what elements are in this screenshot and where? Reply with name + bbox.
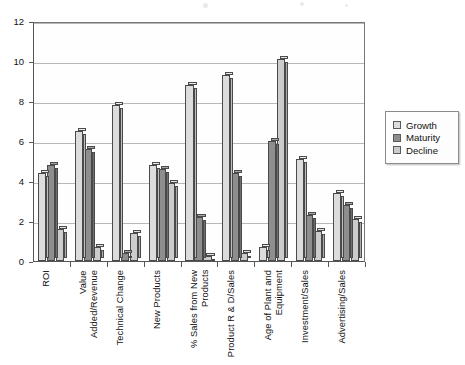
- bar-side-face: [166, 172, 169, 258]
- bar-growth: [259, 247, 267, 261]
- bar-growth: [222, 75, 230, 261]
- x-axis-tick-mark: [291, 262, 292, 267]
- y-axis-tick-label: 4: [2, 177, 24, 187]
- x-axis-tick-mark: [217, 262, 218, 267]
- x-axis-tick-mark: [254, 262, 255, 267]
- y-axis-tick-label: 2: [2, 217, 24, 227]
- bar-side-face: [230, 78, 233, 258]
- x-axis-tick-mark: [144, 262, 145, 267]
- legend-item-label: Growth: [406, 120, 437, 131]
- legend-item-label: Maturity: [406, 132, 440, 143]
- bar-front-face: [185, 85, 193, 261]
- y-axis-tick-label: 12: [2, 17, 24, 27]
- bar-maturity: [268, 141, 276, 261]
- bar-side-face: [129, 256, 132, 258]
- bar-growth: [185, 85, 193, 261]
- x-axis-tick-mark: [328, 262, 329, 267]
- bar-growth: [296, 159, 304, 261]
- legend-swatch-icon: [393, 134, 401, 142]
- scan-speckle: [345, 4, 348, 7]
- bars-layer: [34, 23, 364, 261]
- bar-chart: 024681012 ROIValue Added/RevenueTechnica…: [0, 0, 465, 365]
- bar-growth: [149, 165, 157, 261]
- bar-side-face: [267, 250, 270, 258]
- bar-growth: [333, 193, 341, 261]
- bar-growth: [38, 173, 46, 261]
- legend-item-decline[interactable]: Decline: [393, 145, 452, 156]
- bar-side-face: [46, 176, 49, 258]
- bar-front-face: [268, 141, 276, 261]
- legend-swatch-icon: [393, 121, 401, 129]
- bar-front-face: [222, 75, 230, 261]
- x-axis-category-label: Advertising/Sales: [337, 270, 348, 344]
- bar-front-face: [259, 247, 267, 261]
- x-axis-tick-mark: [365, 262, 366, 267]
- x-axis-category-label: Technical Change: [115, 270, 126, 346]
- legend-item-maturity[interactable]: Maturity: [393, 132, 452, 143]
- bar-side-face: [248, 256, 251, 258]
- bar-side-face: [138, 236, 141, 258]
- bar-side-face: [92, 152, 95, 258]
- chart-legend: GrowthMaturityDecline: [385, 111, 459, 164]
- bar-front-face: [38, 173, 46, 261]
- x-axis-category-label: Investment/Sales: [300, 270, 311, 343]
- plot-area: [33, 22, 365, 262]
- x-axis-category-label: ROI: [41, 270, 52, 287]
- bar-front-face: [296, 159, 304, 261]
- bar-side-face: [313, 218, 316, 258]
- x-axis-tick-mark: [107, 262, 108, 267]
- x-axis-category-label: Product R & D/Sales: [226, 270, 237, 357]
- bar-side-face: [157, 168, 160, 258]
- x-axis-tick-mark: [181, 262, 182, 267]
- legend-item-growth[interactable]: Growth: [393, 120, 452, 131]
- y-axis-tick-label: 8: [2, 97, 24, 107]
- bar-side-face: [120, 108, 123, 258]
- x-axis-category-label: Age of Plant and Equipment: [263, 270, 284, 340]
- bar-front-face: [75, 131, 83, 261]
- legend-swatch-icon: [393, 146, 401, 154]
- x-axis-tick-mark: [70, 262, 71, 267]
- y-axis-tick-label: 0: [2, 257, 24, 267]
- x-axis-category-label: Value Added/Revenue: [78, 270, 99, 338]
- legend-item-label: Decline: [406, 145, 438, 156]
- bar-front-face: [333, 193, 341, 261]
- bar-side-face: [203, 220, 206, 258]
- bar-side-face: [239, 176, 242, 258]
- bar-side-face: [350, 208, 353, 258]
- bar-side-face: [341, 196, 344, 258]
- bar-side-face: [276, 144, 279, 258]
- bar-side-face: [64, 232, 67, 258]
- bar-side-face: [285, 62, 288, 258]
- x-axis-category-label: New Products: [152, 270, 163, 329]
- bar-side-face: [175, 186, 178, 258]
- scan-speckle: [203, 3, 208, 8]
- bar-side-face: [55, 168, 58, 258]
- bar-side-face: [359, 222, 362, 258]
- bar-side-face: [304, 162, 307, 258]
- bar-side-face: [101, 250, 104, 258]
- scan-speckle: [300, 2, 304, 6]
- x-axis-category-label: % Sales from New Products: [189, 270, 210, 348]
- bar-growth: [112, 105, 120, 261]
- y-axis-tick-mark: [29, 262, 33, 263]
- bar-side-face: [194, 88, 197, 258]
- bar-growth: [75, 131, 83, 261]
- y-axis-tick-label: 6: [2, 137, 24, 147]
- bar-front-face: [112, 105, 120, 261]
- y-axis-tick-label: 10: [2, 57, 24, 67]
- bar-side-face: [322, 234, 325, 258]
- bar-side-face: [212, 259, 215, 261]
- bar-side-face: [83, 134, 86, 258]
- bar-front-face: [149, 165, 157, 261]
